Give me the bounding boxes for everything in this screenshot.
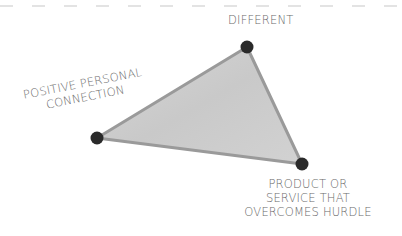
vertex-dot-left bbox=[91, 132, 104, 145]
label-line: OVERCOMES HURDLE bbox=[233, 205, 383, 219]
triangle-diagram: DIFFERENT POSITIVE PERSONAL CONNECTION P… bbox=[0, 0, 402, 236]
label-line: SERVICE THAT bbox=[233, 191, 383, 205]
triangle-shape bbox=[97, 47, 302, 164]
label-product-or-service: PRODUCT OR SERVICE THAT OVERCOMES HURDLE bbox=[233, 177, 383, 219]
vertex-dot-top bbox=[241, 41, 254, 54]
label-line: PRODUCT OR bbox=[233, 177, 383, 191]
vertex-dot-bottom-right bbox=[296, 158, 309, 171]
label-line: DIFFERENT bbox=[228, 13, 293, 27]
label-different: DIFFERENT bbox=[228, 13, 293, 27]
